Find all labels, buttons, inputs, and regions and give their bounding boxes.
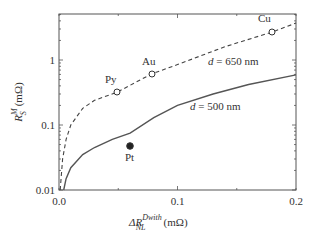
point-label-py: Py (105, 73, 117, 85)
data-points: PyAuCuPt (105, 12, 275, 163)
x-tick-label: 0.2 (289, 195, 303, 207)
y-tick-label: 1 (50, 54, 56, 66)
series-label-d650: d = 650 nm (208, 55, 259, 67)
curve-d500 (64, 75, 296, 190)
point-label-cu: Cu (258, 12, 271, 24)
y-axis-label: RMS(mΩ) (10, 82, 28, 123)
plot-frame (59, 14, 296, 190)
x-axis-label: ΔRDwithNL(mΩ) (128, 213, 188, 232)
x-tick-label: 0.1 (171, 195, 185, 207)
y-tick-labels: 0.010.11 (36, 54, 55, 196)
svg-text:RMS(mΩ): RMS(mΩ) (10, 82, 28, 123)
data-point-py (114, 89, 120, 95)
y-tick-label: 0.1 (41, 119, 55, 131)
x-tick-labels: 0.00.10.2 (52, 195, 303, 207)
series-label-d500: d = 500 nm (190, 100, 241, 112)
x-tick-label: 0.0 (52, 195, 66, 207)
data-point-au (149, 71, 155, 77)
curve-d650 (60, 23, 296, 190)
point-label-au: Au (142, 55, 156, 67)
data-point-cu (269, 29, 275, 35)
point-label-pt: Pt (125, 151, 134, 163)
data-point-pt (127, 143, 134, 150)
chart: PyAuCuPt 0.010.11 0.00.10.2 d = 650 nm d… (0, 0, 314, 235)
y-axis-ticks (59, 15, 296, 190)
x-axis-ticks (59, 14, 296, 190)
